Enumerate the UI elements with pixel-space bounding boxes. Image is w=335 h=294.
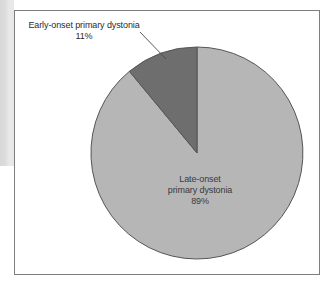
slice-label-late-onset-line2: primary dystonia: [140, 185, 260, 196]
slice-label-early-onset: Early-onset primary dystonia 11%: [18, 20, 150, 42]
slice-label-late-onset-percent: 89%: [140, 196, 260, 207]
slice-label-late-onset: Late-onset primary dystonia 89%: [140, 174, 260, 207]
page-background: Early-onset primary dystonia 11% Late-on…: [0, 0, 335, 294]
pie-chart: [0, 0, 335, 294]
slice-label-early-onset-name: Early-onset primary dystonia: [28, 20, 139, 30]
slice-label-late-onset-line1: Late-onset: [140, 174, 260, 185]
slice-label-early-onset-percent: 11%: [18, 31, 150, 42]
